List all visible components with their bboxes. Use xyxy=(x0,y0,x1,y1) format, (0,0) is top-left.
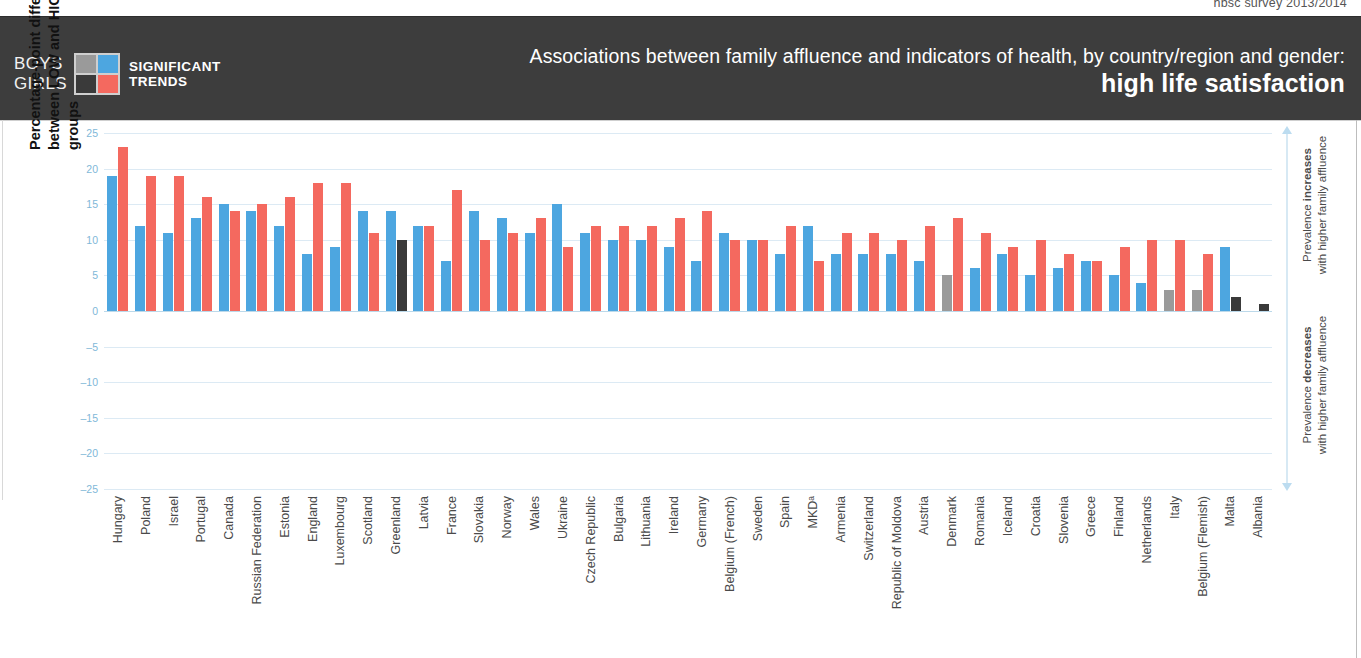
bar-boys xyxy=(191,218,201,311)
direction-rail xyxy=(1286,133,1288,489)
y-tick--20: –20 xyxy=(80,447,98,459)
bar-group xyxy=(1050,133,1078,489)
x-axis-label-text: Romania xyxy=(973,496,987,546)
bar-group xyxy=(1217,133,1245,489)
x-axis-label: Finland xyxy=(1105,494,1133,654)
y-tick-0: 0 xyxy=(92,305,98,317)
x-axis-label-text: Lithuania xyxy=(639,496,653,547)
x-axis-label: Portugal xyxy=(187,494,215,654)
x-axis-label-text: Israel xyxy=(167,496,181,527)
bar-boys xyxy=(942,275,952,311)
x-axis-label-text: Albania xyxy=(1251,496,1265,538)
y-axis-label-line2: between LOW and HIGH family affluence gr… xyxy=(46,0,81,150)
x-axis-label: Ukraine xyxy=(549,494,577,654)
bar-girls xyxy=(1231,297,1241,311)
bar-girls xyxy=(897,240,907,311)
bar-boys xyxy=(1053,268,1063,311)
bar-girls xyxy=(174,176,184,311)
y-axis-label: Percentage-point difference in prevalenc… xyxy=(26,0,83,150)
bar-boys xyxy=(858,254,868,311)
bar-girls xyxy=(146,176,156,311)
x-axis-label: France xyxy=(438,494,466,654)
bar-girls xyxy=(508,233,518,311)
bar-girls xyxy=(230,211,240,311)
bar-girls xyxy=(1147,240,1157,311)
bar-boys xyxy=(1025,275,1035,311)
x-axis-label-text: Switzerland xyxy=(862,496,876,561)
bar-boys xyxy=(302,254,312,311)
x-axis-label: Germany xyxy=(688,494,716,654)
x-axis-label: Switzerland xyxy=(855,494,883,654)
x-axis-label: Belgium (French) xyxy=(716,494,744,654)
x-axis-label-text: Greenland xyxy=(389,496,403,554)
bar-boys xyxy=(831,254,841,311)
y-tick-5: 5 xyxy=(92,269,98,281)
bar-groups xyxy=(104,133,1272,489)
x-axis-label-text: Armenia xyxy=(834,496,848,543)
bar-girls xyxy=(424,226,434,311)
bar-boys xyxy=(775,254,785,311)
x-axis-label: Romania xyxy=(966,494,994,654)
bar-group xyxy=(1244,133,1272,489)
rail-arrow-up-icon xyxy=(1282,126,1292,134)
bar-group xyxy=(493,133,521,489)
x-axis-label: Czech Republic xyxy=(577,494,605,654)
bar-boys xyxy=(747,240,757,311)
bar-boys xyxy=(803,226,813,311)
bar-boys xyxy=(719,233,729,311)
bar-group xyxy=(160,133,188,489)
bar-boys xyxy=(914,261,924,311)
bar-boys xyxy=(1081,261,1091,311)
chart-title-line1: Associations between family affluence an… xyxy=(355,43,1345,69)
x-axis-label: Israel xyxy=(160,494,188,654)
x-axis-label: Greece xyxy=(1077,494,1105,654)
x-axis-label: MKDᵃ xyxy=(799,494,827,654)
x-axis-label-text: Wales xyxy=(528,496,542,530)
bar-boys xyxy=(246,211,256,311)
bar-boys xyxy=(469,211,479,311)
bar-group xyxy=(744,133,772,489)
bar-boys xyxy=(135,226,145,311)
x-axis-label: Armenia xyxy=(827,494,855,654)
bar-girls xyxy=(814,261,824,311)
bar-girls xyxy=(730,240,740,311)
y-tick--10: –10 xyxy=(80,376,98,388)
bar-boys xyxy=(608,240,618,311)
x-axis-label-text: Netherlands xyxy=(1140,496,1154,563)
bar-boys xyxy=(1164,290,1174,311)
x-axis-label-text: Ireland xyxy=(667,496,681,534)
chart-left-border xyxy=(2,120,3,500)
x-axis-label-text: Portugal xyxy=(194,496,208,543)
bar-girls xyxy=(1008,247,1018,311)
bar-group xyxy=(438,133,466,489)
bar-group xyxy=(466,133,494,489)
bar-boys xyxy=(413,226,423,311)
x-axis-label-text: Canada xyxy=(222,496,236,540)
survey-label: hbsc survey 2013/2014 xyxy=(1214,0,1347,10)
bar-boys xyxy=(997,254,1007,311)
bar-boys xyxy=(497,218,507,311)
bar-girls xyxy=(285,197,295,311)
x-axis-label-text: Estonia xyxy=(278,496,292,538)
bar-group xyxy=(911,133,939,489)
bar-boys xyxy=(330,247,340,311)
x-axis-label: Hungary xyxy=(104,494,132,654)
annotation-decreases-suffix: with higher family affluence xyxy=(1316,316,1328,455)
x-axis-label: Bulgaria xyxy=(605,494,633,654)
x-axis-label: England xyxy=(299,494,327,654)
bar-boys xyxy=(1109,275,1119,311)
x-axis-label-text: Malta xyxy=(1223,496,1237,527)
bar-group xyxy=(187,133,215,489)
bar-girls xyxy=(869,233,879,311)
x-axis-label: Albania xyxy=(1244,494,1272,654)
x-axis-label-text: Iceland xyxy=(1001,496,1015,536)
swatch-boys-significant xyxy=(98,55,118,73)
x-axis-labels: HungaryPolandIsraelPortugalCanadaRussian… xyxy=(104,494,1272,654)
bar-girls xyxy=(536,218,546,311)
bar-group xyxy=(1105,133,1133,489)
x-axis-label-text: Finland xyxy=(1112,496,1126,537)
x-axis-label: Republic of Moldova xyxy=(883,494,911,654)
annotation-decreases: Prevalence decreases with higher family … xyxy=(1300,290,1330,480)
x-axis-label-text: Belgium (Flemish) xyxy=(1196,496,1210,597)
bar-group xyxy=(772,133,800,489)
